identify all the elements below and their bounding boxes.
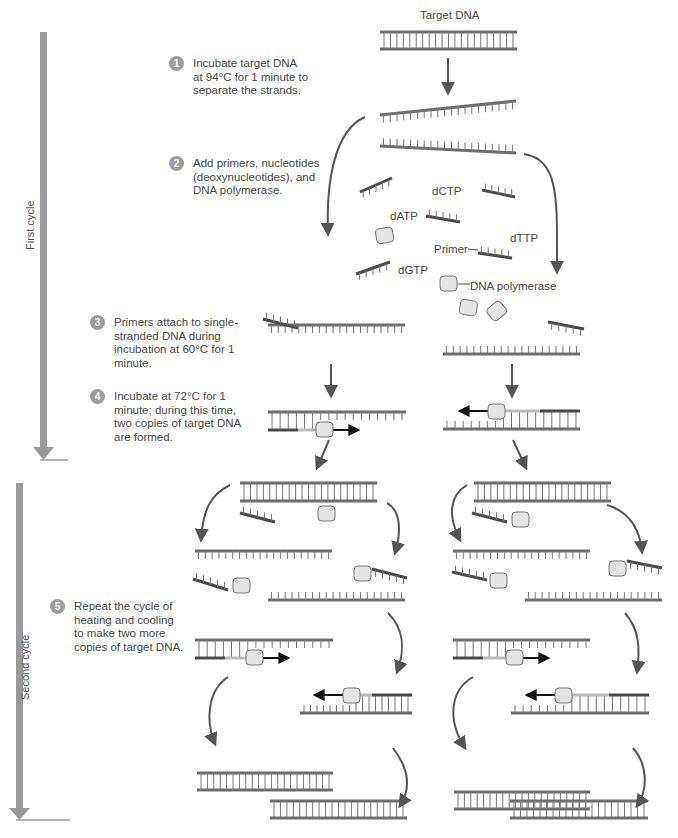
target-dna-title: Target DNA — [420, 9, 479, 21]
step-text: Add primers, nucleotides (deoxynucleotid… — [193, 157, 320, 198]
dgtp-label: dGTP — [398, 264, 428, 276]
step-text: Primers attach to single- stranded DNA d… — [114, 316, 238, 370]
step-text: Incubate at 72°C for 1 minute; during th… — [114, 390, 241, 444]
dctp-label: dCTP — [432, 185, 461, 197]
step-badge: 2 — [169, 156, 184, 171]
step-text: Incubate target DNA at 94°C for 1 minute… — [193, 57, 308, 98]
datp-label: dATP — [390, 210, 418, 222]
step-badge: 5 — [50, 599, 65, 614]
step-badge: 3 — [90, 315, 105, 330]
pcr-diagram — [0, 0, 678, 838]
molecules — [233, 227, 626, 703]
dttp-label: dTTP — [510, 232, 538, 244]
step-5: 5 Repeat the cycle of heating and coolin… — [74, 600, 183, 654]
dna-polymerase-label: DNA polymerase — [470, 280, 556, 292]
step-text: Repeat the cycle of heating and cooling … — [74, 600, 183, 654]
first-cycle-label: First cycle — [24, 201, 36, 251]
step-2: 2 Add primers, nucleotides (deoxynucleot… — [193, 157, 320, 198]
step-badge: 1 — [169, 56, 184, 71]
cycle-timeline — [9, 32, 70, 820]
dna-strands — [193, 32, 662, 818]
step-badge: 4 — [90, 389, 105, 404]
primer-label: Primer — [434, 243, 468, 255]
step-3: 3 Primers attach to single- stranded DNA… — [114, 316, 238, 370]
second-cycle-label: Second cycle — [19, 635, 31, 700]
step-1: 1 Incubate target DNA at 94°C for 1 minu… — [193, 57, 308, 98]
step-4: 4 Incubate at 72°C for 1 minute; during … — [114, 390, 241, 444]
